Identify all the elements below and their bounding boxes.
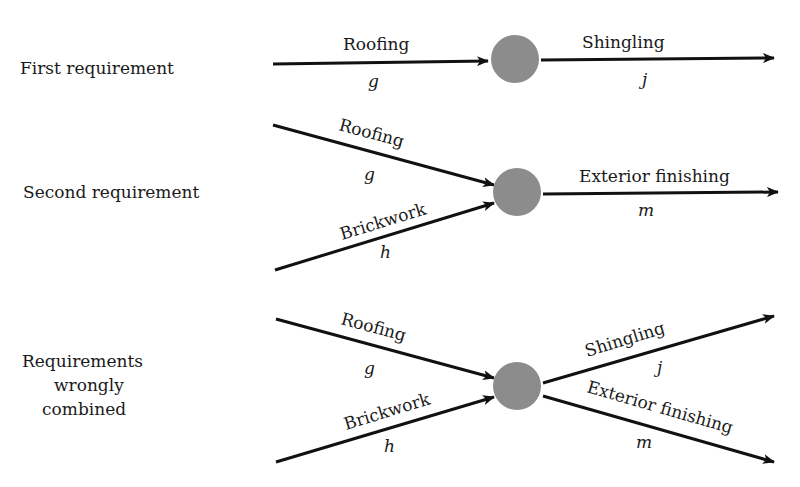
row-label-line: Requirements <box>22 351 143 371</box>
activity-label: Shingling <box>582 318 667 361</box>
variable-label: h <box>384 436 395 456</box>
arrow-roofing <box>273 61 488 64</box>
variable-label: h <box>380 242 391 262</box>
row-second-requirement: Second requirement Roofing g Brickwork h… <box>23 115 778 270</box>
arrow-exterior-finishing <box>543 192 778 194</box>
row-label: First requirement <box>20 58 174 78</box>
event-node <box>493 168 541 216</box>
row-requirements-wrongly-combined: Requirements wrongly combined Roofing g … <box>22 309 774 462</box>
activity-label: Roofing <box>343 34 410 54</box>
row-label-line: wrongly <box>54 375 124 395</box>
event-node <box>491 35 539 83</box>
event-node <box>493 362 541 410</box>
variable-label: g <box>364 358 375 378</box>
activity-label: Exterior finishing <box>579 166 730 186</box>
row-first-requirement: First requirement Roofing g Shingling j <box>20 32 774 91</box>
variable-label: j <box>653 357 663 377</box>
variable-label: j <box>638 69 648 89</box>
variable-label: g <box>368 71 379 91</box>
variable-label: g <box>364 164 375 184</box>
arrow-shingling <box>541 58 774 60</box>
variable-label: m <box>636 432 652 452</box>
activity-label: Brickwork <box>341 388 433 433</box>
row-label-line: combined <box>42 399 126 419</box>
row-label: Second requirement <box>23 182 199 202</box>
activity-label: Shingling <box>582 32 665 52</box>
variable-label: m <box>638 200 654 220</box>
